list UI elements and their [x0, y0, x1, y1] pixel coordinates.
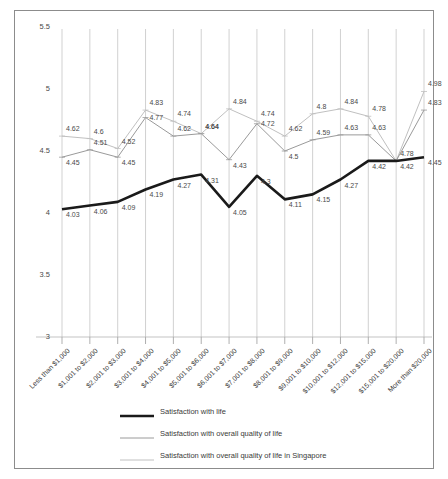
data-point-label: 4.06 [94, 208, 108, 215]
legend-item-label: Satisfaction with overall quality of lif… [160, 451, 326, 460]
data-point-label: 4.31 [205, 177, 219, 184]
data-point-label: 4.84 [344, 98, 358, 105]
y-axis-tick-label: 4.5 [24, 146, 50, 155]
data-point-label: 4.59 [317, 129, 331, 136]
data-point-label: 4.83 [150, 99, 164, 106]
data-point-label: 4.05 [233, 209, 247, 216]
legend-item-label: Satisfaction with life [160, 407, 226, 416]
data-point-label: 4.42 [372, 163, 386, 170]
data-point-label: 4.27 [177, 182, 191, 189]
data-point-label: 4.62 [177, 125, 191, 132]
legend-item-satisfaction-with-life[interactable]: Satisfaction with life [120, 406, 420, 428]
data-point-label: 4.19 [150, 191, 164, 198]
data-point-label: 4.74 [177, 110, 191, 117]
data-point-label: 4.78 [400, 150, 414, 157]
legend-item-overall-quality-of-life[interactable]: Satisfaction with overall quality of lif… [120, 428, 420, 450]
data-point-label: 4.3 [261, 178, 271, 185]
legend-item-label: Satisfaction with overall quality of lif… [160, 429, 282, 438]
data-point-label: 4.6 [94, 128, 104, 135]
data-point-label: 4.62 [289, 125, 303, 132]
legend-item-overall-quality-of-life-singapore[interactable]: Satisfaction with overall quality of lif… [120, 450, 420, 472]
data-point-label: 4.51 [94, 139, 108, 146]
data-point-label: 4.27 [344, 182, 358, 189]
data-point-label: 4.84 [233, 98, 247, 105]
data-point-label: 4.62 [66, 125, 80, 132]
data-point-label: 4.11 [289, 201, 302, 208]
data-point-label: 4.74 [261, 110, 275, 117]
data-point-label: 4.45 [122, 159, 136, 166]
data-point-label: 4.63 [372, 124, 386, 131]
data-point-label: 4.98 [428, 80, 442, 87]
data-point-label: 4.63 [344, 124, 358, 131]
y-axis-tick-label: 4 [24, 208, 50, 217]
y-axis-tick-label: 3 [24, 332, 50, 341]
legend-line-swatch [120, 435, 154, 441]
y-axis-tick-label: 5.5 [24, 22, 50, 31]
data-point-label: 4.09 [122, 204, 136, 211]
data-point-label: 4.15 [317, 196, 331, 203]
data-point-label: 4.42 [400, 163, 414, 170]
data-point-label: 4.45 [66, 159, 80, 166]
legend-line-swatch [120, 457, 154, 463]
data-point-label: 4.64 [205, 123, 219, 130]
chart-legend: Satisfaction with life Satisfaction with… [120, 406, 420, 472]
y-axis-tick-label: 3.5 [24, 270, 50, 279]
data-point-label: 4.52 [122, 138, 136, 145]
data-point-label: 4.43 [233, 162, 247, 169]
data-point-label: 4.78 [372, 105, 386, 112]
data-point-label: 4.45 [428, 159, 442, 166]
data-point-label: 4.72 [261, 120, 275, 127]
data-point-label: 4.8 [317, 103, 327, 110]
y-axis-tick-label: 5 [24, 84, 50, 93]
data-point-label: 4.83 [428, 99, 442, 106]
legend-line-swatch [120, 413, 154, 419]
data-point-label: 4.03 [66, 211, 80, 218]
data-point-label: 4.77 [150, 114, 164, 121]
data-point-label: 4.5 [289, 153, 299, 160]
